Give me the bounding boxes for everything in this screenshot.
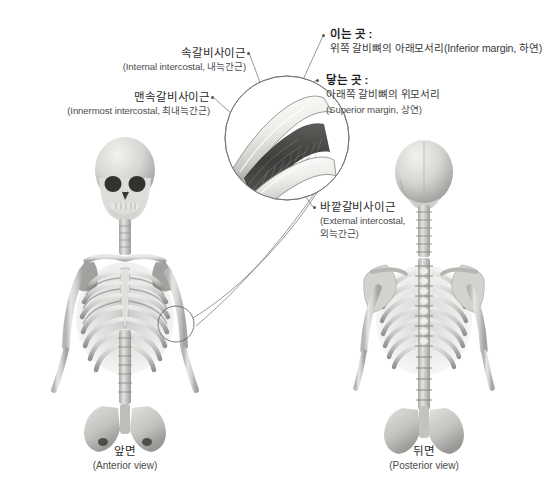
label-origin-detail: 위쪽 갈비뼈의 아래모서리(Inferior margin, 하연) xyxy=(330,42,542,56)
anchor-dot-internal-intercostal xyxy=(247,52,250,55)
label-origin-heading: 이는 곳 : xyxy=(330,27,542,42)
anchor-dot-origin xyxy=(322,34,325,37)
caption-anterior-en: (Anterior view) xyxy=(65,459,185,473)
label-internal-intercostal-en: (Internal intercostal, 내늑간근) xyxy=(0,61,246,74)
label-insertion-heading: 닿는 곳 : xyxy=(326,73,440,88)
skeleton-illustrations-layer xyxy=(0,0,554,500)
anchor-dot-innermost-intercostal xyxy=(211,96,214,99)
label-innermost-intercostal-kr: 맨속갈비사이근 xyxy=(0,90,210,105)
label-external-intercostal: 바깥갈비사이근 (External intercostal, 외늑간근) xyxy=(320,200,405,240)
label-insertion: 닿는 곳 : 아래쪽 갈비뼈의 위모서리 (Superior margin, 상… xyxy=(326,73,440,117)
caption-posterior: 뒤면 (Posterior view) xyxy=(364,443,484,473)
label-innermost-intercostal-en: (Innermost intercostal, 최내늑간근) xyxy=(0,105,210,118)
label-external-intercostal-en-line1: (External intercostal, xyxy=(320,215,405,228)
caption-anterior-kr: 앞면 xyxy=(65,443,185,459)
caption-posterior-kr: 뒤면 xyxy=(364,443,484,459)
anchor-dot-external-intercostal xyxy=(313,206,316,209)
figure-canvas: 속갈비사이근 (Internal intercostal, 내늑간근) 맨속갈비… xyxy=(0,0,554,500)
label-internal-intercostal: 속갈비사이근 (Internal intercostal, 내늑간근) xyxy=(0,46,246,74)
label-innermost-intercostal: 맨속갈비사이근 (Innermost intercostal, 최내늑간근) xyxy=(0,90,210,118)
anchor-dot-insertion xyxy=(316,79,319,82)
label-insertion-detail-line2: (Superior margin, 상연) xyxy=(326,104,440,117)
label-external-intercostal-kr: 바깥갈비사이근 xyxy=(320,200,405,215)
label-external-intercostal-en-line2: 외늑간근) xyxy=(320,228,405,241)
label-origin: 이는 곳 : 위쪽 갈비뼈의 아래모서리(Inferior margin, 하연… xyxy=(330,27,542,56)
anterior-skeleton-illustration xyxy=(54,137,196,452)
lower-rib-cut-end xyxy=(241,195,263,219)
label-internal-intercostal-kr: 속갈비사이근 xyxy=(0,46,246,61)
posterior-skeleton-illustration xyxy=(356,140,492,454)
caption-posterior-en: (Posterior view) xyxy=(364,459,484,473)
caption-anterior: 앞면 (Anterior view) xyxy=(65,443,185,473)
label-insertion-detail-line1: 아래쪽 갈비뼈의 위모서리 xyxy=(326,88,440,102)
